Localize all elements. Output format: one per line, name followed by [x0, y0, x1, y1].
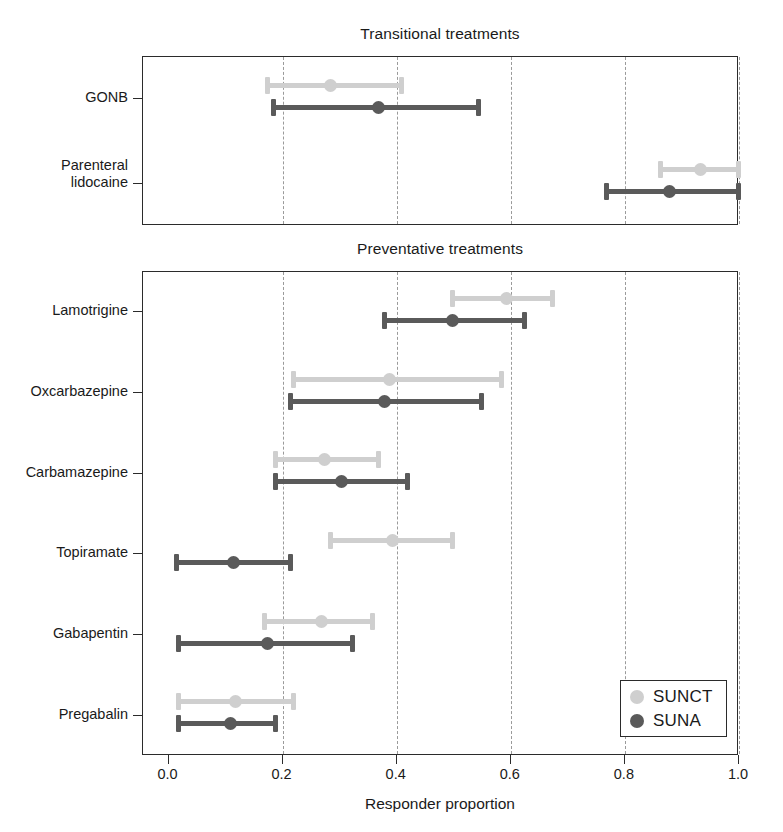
estimate-marker [261, 637, 274, 650]
interval-cap-lower [382, 312, 387, 329]
x-axis-tick [624, 755, 625, 764]
y-axis-tick [133, 98, 142, 99]
y-axis-tick [133, 392, 142, 393]
interval-cap-upper [479, 393, 484, 410]
y-axis-label-carbamazepine: Carbamazepine [0, 464, 128, 481]
y-axis-label-line: Parenteral [61, 157, 128, 173]
estimate-marker [315, 615, 328, 628]
interval-cap-upper [291, 693, 296, 710]
y-axis-tick [133, 183, 142, 184]
x-axis-tick-label: 1.0 [708, 766, 768, 782]
interval-cap-lower [176, 693, 181, 710]
x-axis-tick-label: 0.2 [252, 766, 312, 782]
interval-cap-lower [176, 715, 181, 732]
interval-cap-lower [450, 290, 455, 307]
y-axis-label-line: Gabapentin [53, 625, 128, 641]
clipped-header-text [330, 0, 780, 9]
estimate-marker [372, 101, 385, 114]
interval-cap-upper [550, 290, 555, 307]
y-axis-tick [133, 634, 142, 635]
y-axis-label-line: Oxcarbazepine [30, 383, 128, 399]
interval-cap-upper [370, 613, 375, 630]
interval-cap-upper [376, 451, 381, 468]
interval-cap-upper [522, 312, 527, 329]
estimate-marker [227, 556, 240, 569]
legend-item-suna: SUNA [630, 711, 701, 731]
y-axis-label-line: Pregabalin [59, 706, 128, 722]
interval-cap-upper [288, 554, 293, 571]
legend-swatch-suna [630, 714, 644, 728]
x-axis-tick-label: 0.8 [594, 766, 654, 782]
x-axis-tick [510, 755, 511, 764]
legend-label-sunct: SUNCT [653, 687, 713, 707]
x-axis-tick [738, 755, 739, 764]
y-axis-label-gabapentin: Gabapentin [0, 625, 128, 642]
x-axis-tick-label: 0.6 [480, 766, 540, 782]
interval-cap-upper [450, 532, 455, 549]
x-axis-tick [282, 755, 283, 764]
interval-cap-lower [265, 77, 270, 94]
y-axis-label-parenteral-lidocaine: Parenterallidocaine [0, 157, 128, 191]
confidence-interval-line [293, 377, 501, 382]
y-axis-label-line: Carbamazepine [26, 464, 128, 480]
legend-item-sunct: SUNCT [630, 687, 713, 707]
estimate-marker [224, 717, 237, 730]
y-axis-label-line: Topiramate [56, 544, 128, 560]
interval-cap-lower [658, 161, 663, 178]
interval-cap-lower [328, 532, 333, 549]
interval-cap-upper [736, 161, 741, 178]
legend-swatch-sunct [630, 690, 644, 704]
gridline [397, 272, 398, 754]
interval-cap-upper [476, 99, 481, 116]
y-axis-label-line: Lamotrigine [52, 302, 128, 318]
y-axis-label-gonb: GONB [0, 89, 128, 106]
interval-cap-upper [399, 77, 404, 94]
y-axis-tick [133, 715, 142, 716]
interval-cap-lower [262, 613, 267, 630]
panel-title-transitional: Transitional treatments [142, 25, 738, 43]
x-axis-title: Responder proportion [142, 795, 738, 813]
x-axis-tick-label: 0.0 [138, 766, 198, 782]
y-axis-label-line: GONB [85, 89, 128, 105]
y-axis-label-pregabalin: Pregabalin [0, 706, 128, 723]
interval-cap-upper [736, 183, 741, 200]
y-axis-label-lamotrigine: Lamotrigine [0, 302, 128, 319]
estimate-marker [318, 453, 331, 466]
interval-cap-upper [499, 371, 504, 388]
interval-cap-lower [273, 451, 278, 468]
interval-cap-lower [273, 473, 278, 490]
y-axis-label-oxcarbazepine: Oxcarbazepine [0, 383, 128, 400]
legend-label-suna: SUNA [653, 711, 701, 731]
gridline [625, 57, 626, 224]
interval-cap-upper [405, 473, 410, 490]
y-axis-label-topiramate: Topiramate [0, 544, 128, 561]
x-axis-tick [168, 755, 169, 764]
gridline [511, 57, 512, 224]
interval-cap-upper [350, 635, 355, 652]
forest-plot-figure: Transitional treatments Preventative tre… [0, 0, 783, 832]
interval-cap-upper [273, 715, 278, 732]
x-axis-tick-label: 0.4 [366, 766, 426, 782]
estimate-marker [378, 395, 391, 408]
y-axis-label-line: lidocaine [71, 174, 128, 190]
interval-cap-lower [288, 393, 293, 410]
gridline [283, 272, 284, 754]
interval-cap-lower [271, 99, 276, 116]
y-axis-tick [133, 553, 142, 554]
y-axis-tick [133, 311, 142, 312]
y-axis-tick [133, 473, 142, 474]
panel-transitional-plot-area [142, 56, 738, 225]
interval-cap-lower [176, 635, 181, 652]
estimate-marker [383, 373, 396, 386]
panel-title-preventative: Preventative treatments [142, 240, 738, 258]
gridline [739, 272, 740, 754]
interval-cap-lower [604, 183, 609, 200]
x-axis-tick [396, 755, 397, 764]
interval-cap-lower [174, 554, 179, 571]
estimate-marker [324, 79, 337, 92]
interval-cap-lower [291, 371, 296, 388]
legend: SUNCT SUNA [620, 680, 727, 737]
estimate-marker [446, 314, 459, 327]
gridline [511, 272, 512, 754]
